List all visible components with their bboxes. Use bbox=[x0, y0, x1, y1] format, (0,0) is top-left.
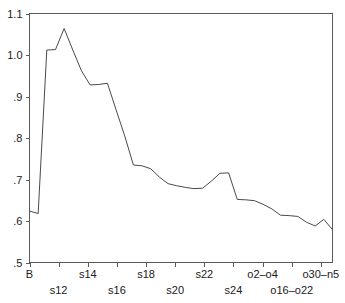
x-axis-tick-label: o2–o4 bbox=[247, 268, 278, 280]
x-axis-tick-label: s12 bbox=[50, 284, 68, 296]
y-axis-ticks bbox=[26, 15, 30, 264]
x-axis-tick-label: o16–o22 bbox=[270, 284, 313, 296]
x-axis-tick-label: s22 bbox=[195, 268, 213, 280]
plot-frame-rect bbox=[30, 14, 333, 263]
y-axis-tick-label: 1.1 bbox=[7, 8, 22, 20]
x-axis-tick-label: s24 bbox=[225, 284, 243, 296]
chart-container: 1.11.0.9.8.7.6.5 Bs12s14s16s18s20s22s24o… bbox=[0, 0, 345, 303]
y-axis-tick-label: 1.0 bbox=[7, 49, 22, 61]
y-axis-tick-label: .8 bbox=[13, 132, 22, 144]
y-axis-tick-label: .6 bbox=[13, 215, 22, 227]
data-series-group bbox=[30, 28, 333, 229]
y-axis-tick-label: .7 bbox=[13, 174, 22, 186]
x-axis-tick-label: s14 bbox=[79, 268, 97, 280]
plot-frame bbox=[30, 14, 333, 263]
x-axis-tick-label: s18 bbox=[137, 268, 155, 280]
y-axis-labels: 1.11.0.9.8.7.6.5 bbox=[7, 8, 22, 269]
series-line bbox=[30, 28, 333, 229]
y-axis-tick-label: .5 bbox=[13, 257, 22, 269]
line-chart-svg: 1.11.0.9.8.7.6.5 Bs12s14s16s18s20s22s24o… bbox=[0, 0, 345, 303]
y-axis-tick-label: .9 bbox=[13, 91, 22, 103]
x-axis-ticks bbox=[31, 263, 322, 267]
x-axis-tick-label: B bbox=[26, 268, 33, 280]
x-axis-labels: Bs12s14s16s18s20s22s24o2–o4o16–o22o30–n5 bbox=[26, 268, 339, 296]
x-axis-tick-label: o30–n5 bbox=[302, 268, 339, 280]
x-axis-tick-label: s20 bbox=[166, 284, 184, 296]
x-axis-tick-label: s16 bbox=[108, 284, 126, 296]
